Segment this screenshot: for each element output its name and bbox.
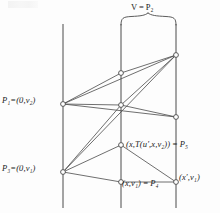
edge-p1-mid-top xyxy=(63,73,121,104)
edge-mid-cross-right-mid xyxy=(121,105,176,117)
node-right-mid xyxy=(174,115,179,120)
node-mid-top xyxy=(119,71,124,76)
label-p3: P₃=(0,v₁) xyxy=(2,163,36,173)
diagram-figure: P₁=(0,v₂) P₃=(0,v₁) V = P₂ (x,T(u′,x,v₂)… xyxy=(0,0,220,213)
label-p1: P₁=(0,v₂) xyxy=(2,95,36,105)
bracket-left-half xyxy=(121,13,148,25)
edge-p3-p5 xyxy=(63,145,121,172)
bracket-right-half xyxy=(148,13,176,25)
label-p4: (x,v₁) = P₄ xyxy=(122,178,159,188)
edge-p3-mid-cross xyxy=(63,105,121,172)
node-p5 xyxy=(119,143,124,148)
label-v-equals-p2: V = P₂ xyxy=(131,2,154,12)
edge-mid-cross-right-top xyxy=(121,55,176,105)
node-p1 xyxy=(61,102,66,107)
label-x-prime: (x′,v₁) xyxy=(179,172,200,182)
edge-p1-right-top xyxy=(63,55,176,104)
edge-p5-x-prime xyxy=(121,145,176,182)
node-mid-cross xyxy=(119,103,124,108)
node-right-top xyxy=(174,53,179,58)
edge-p3-p4 xyxy=(63,172,121,182)
label-p5: (x,T(u′,x,v₂)) = P₅ xyxy=(126,139,188,149)
v-span-bracket xyxy=(121,13,176,25)
node-p3 xyxy=(61,170,66,175)
node-x-prime xyxy=(174,180,179,185)
